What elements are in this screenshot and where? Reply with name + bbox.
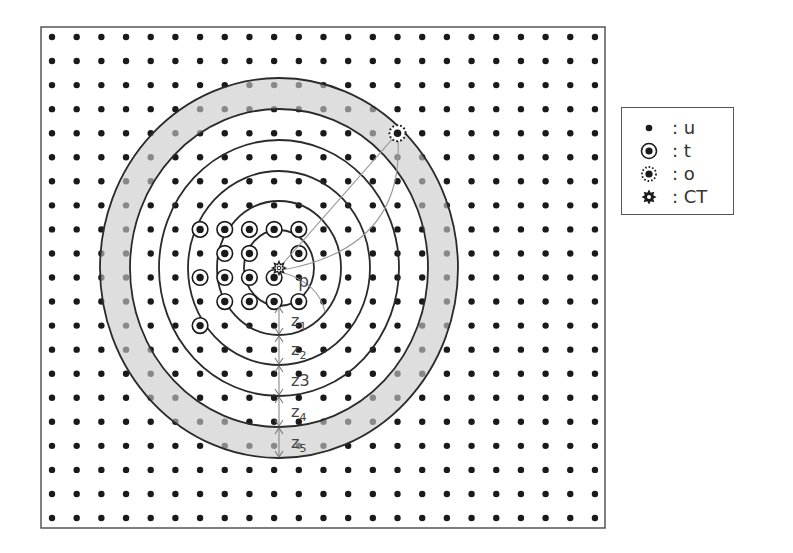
u-node <box>419 491 425 497</box>
u-node <box>98 443 104 449</box>
u-node <box>320 154 326 160</box>
u-node <box>394 274 400 280</box>
u-node <box>222 395 228 401</box>
u-node <box>394 226 400 232</box>
u-node <box>394 515 400 521</box>
u-node <box>197 467 203 473</box>
u-node <box>468 202 474 208</box>
zone-label-z3: z3 <box>291 371 310 390</box>
u-node <box>444 515 450 521</box>
u-node <box>518 226 524 232</box>
u-node <box>592 322 598 328</box>
u-node <box>567 202 573 208</box>
u-node <box>345 467 351 473</box>
u-node <box>73 130 79 136</box>
u-node <box>197 515 203 521</box>
u-node <box>345 130 351 136</box>
u-node <box>468 226 474 232</box>
u-node <box>518 58 524 64</box>
u-node <box>148 467 154 473</box>
u-node <box>320 395 326 401</box>
u-node <box>246 491 252 497</box>
u-node <box>296 154 302 160</box>
u-node <box>73 443 79 449</box>
u-node <box>320 202 326 208</box>
u-node <box>197 154 203 160</box>
legend-label: : CT <box>672 186 707 208</box>
u-node <box>73 346 79 352</box>
legend-item-ct: : CT <box>622 186 733 208</box>
u-node <box>542 467 548 473</box>
u-node <box>222 130 228 136</box>
u-node <box>567 491 573 497</box>
u-node <box>493 371 499 377</box>
u-node <box>98 106 104 112</box>
u-node <box>542 346 548 352</box>
u-node <box>592 58 598 64</box>
u-node <box>197 178 203 184</box>
u-node <box>345 82 351 88</box>
u-node <box>518 250 524 256</box>
u-node <box>246 467 252 473</box>
u-node <box>542 58 548 64</box>
t-node <box>217 222 233 238</box>
u-node <box>370 202 376 208</box>
u-node <box>518 82 524 88</box>
u-node <box>197 58 203 64</box>
u-node <box>493 298 499 304</box>
u-node <box>468 467 474 473</box>
u-node <box>592 515 598 521</box>
u-node <box>222 515 228 521</box>
u-node <box>73 202 79 208</box>
u-node <box>468 178 474 184</box>
legend-item-o: : o <box>622 163 733 185</box>
u-node <box>567 106 573 112</box>
u-node <box>148 58 154 64</box>
t-node <box>291 222 307 238</box>
u-node <box>197 395 203 401</box>
u-node <box>222 34 228 40</box>
u-node <box>542 443 548 449</box>
u-node <box>98 322 104 328</box>
u-node <box>567 274 573 280</box>
u-node <box>148 419 154 425</box>
u-node <box>246 154 252 160</box>
u-node <box>172 34 178 40</box>
u-node <box>296 58 302 64</box>
u-node <box>49 154 55 160</box>
u-node <box>246 178 252 184</box>
u-node <box>567 443 573 449</box>
u-node <box>567 130 573 136</box>
u-node <box>518 274 524 280</box>
u-node <box>123 130 129 136</box>
u-node <box>320 274 326 280</box>
u-node <box>172 515 178 521</box>
u-node <box>567 346 573 352</box>
u-node <box>567 82 573 88</box>
u-node <box>444 178 450 184</box>
u-node <box>73 395 79 401</box>
u-node <box>518 34 524 40</box>
legend-label: : o <box>672 163 695 185</box>
u-node <box>592 82 598 88</box>
t-node <box>192 222 208 238</box>
legend-label: : u <box>672 117 695 139</box>
u-node <box>49 250 55 256</box>
u-node <box>172 298 178 304</box>
u-node <box>345 395 351 401</box>
u-node <box>370 467 376 473</box>
u-node <box>370 58 376 64</box>
u-node <box>518 154 524 160</box>
u-node <box>592 154 598 160</box>
u-node <box>271 322 277 328</box>
u-node <box>592 274 598 280</box>
u-node <box>518 346 524 352</box>
u-node <box>49 443 55 449</box>
u-node <box>197 82 203 88</box>
u-node <box>370 250 376 256</box>
u-node <box>123 154 129 160</box>
u-node <box>73 58 79 64</box>
u-node <box>73 178 79 184</box>
u-node <box>468 130 474 136</box>
u-node <box>123 395 129 401</box>
